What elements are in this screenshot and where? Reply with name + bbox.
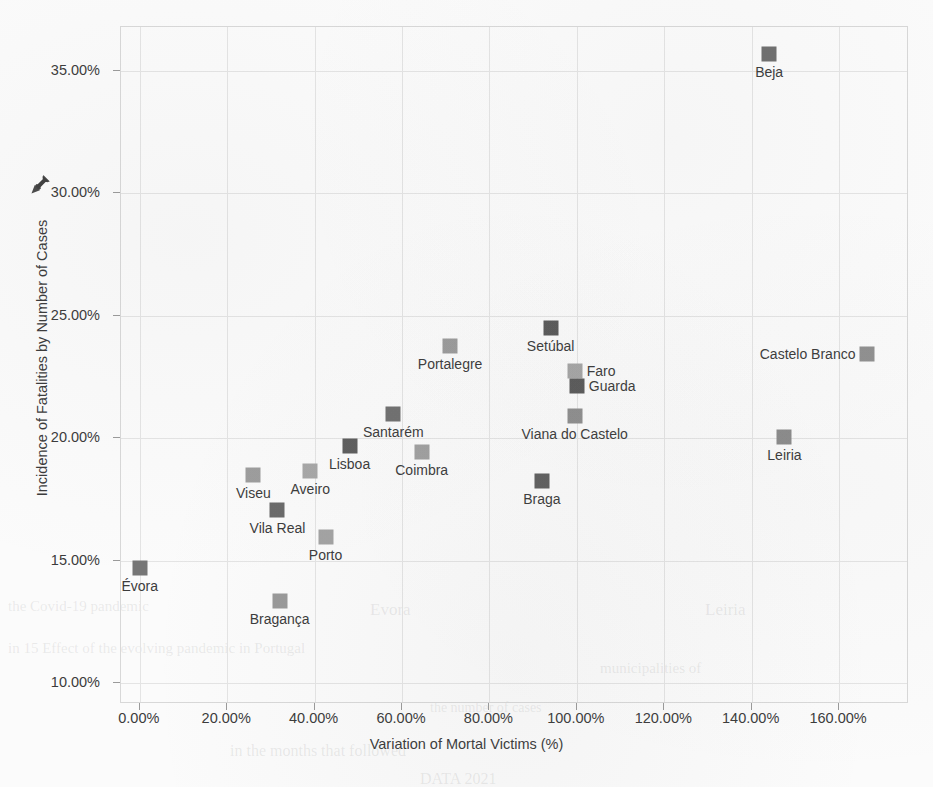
data-point-marker[interactable] [762,46,777,61]
x-axis-tick-label: 140.00% [722,710,779,726]
data-point-label: Faro [587,363,616,379]
y-axis-tick [113,70,120,71]
data-point-label: Viana do Castelo [521,426,627,442]
scatter-chart-figure: EvoraLeiriathe Covid-19 pandemicin 15 Ef… [0,0,933,787]
data-point-label: Évora [121,578,158,594]
data-point-label: Beja [755,64,783,80]
data-point-marker[interactable] [270,503,285,518]
x-axis-tick-label: 20.00% [202,710,251,726]
data-point-marker[interactable] [342,438,357,453]
x-axis-tick [401,703,402,710]
data-point-marker[interactable] [414,444,429,459]
y-axis-title: Incidence of Fatalities by Number of Cas… [34,148,50,568]
x-axis-tick [663,703,664,710]
x-axis-tick [488,703,489,710]
data-point-label: Portalegre [418,356,483,372]
x-axis-tick [226,703,227,710]
gridline-horizontal [121,683,907,684]
gridline-vertical [402,27,403,702]
data-point-marker[interactable] [132,560,147,575]
data-point-marker[interactable] [860,346,875,361]
x-axis-tick-label: 0.00% [118,710,159,726]
data-point-label: Guarda [589,378,636,394]
data-point-marker[interactable] [303,464,318,479]
gridline-vertical [489,27,490,702]
gridline-vertical [752,27,753,702]
y-axis-tick [113,560,120,561]
y-axis-tick-label: 35.00% [8,62,100,78]
y-axis-tick [113,437,120,438]
gridline-horizontal [121,193,907,194]
data-point-marker[interactable] [567,409,582,424]
data-point-marker[interactable] [777,429,792,444]
x-axis-tick-label: 60.00% [376,710,425,726]
data-point-label: Vila Real [250,520,306,536]
x-axis-tick-label: 120.00% [635,710,692,726]
gridline-vertical [664,27,665,702]
gridline-horizontal [121,561,907,562]
x-axis-tick [314,703,315,710]
x-axis-tick-label: 160.00% [809,710,866,726]
x-axis-tick [576,703,577,710]
y-axis-tick-label: 20.00% [8,429,100,445]
data-point-marker[interactable] [318,530,333,545]
y-axis-tick-label: 10.00% [8,674,100,690]
data-point-marker[interactable] [443,339,458,354]
data-point-label: Viseu [236,485,271,501]
data-point-label: Lisboa [329,456,370,472]
data-point-label: Castelo Branco [760,346,856,362]
y-axis-tick [113,192,120,193]
data-point-label: Bragança [250,611,310,627]
y-axis-tick [113,682,120,683]
pushpin-icon [30,173,52,195]
data-point-label: Coimbra [395,462,448,478]
data-point-marker[interactable] [272,593,287,608]
y-axis-tick [113,315,120,316]
data-point-marker[interactable] [246,467,261,482]
x-axis-tick [838,703,839,710]
gridline-horizontal [121,71,907,72]
y-axis-tick-label: 25.00% [8,307,100,323]
data-point-marker[interactable] [534,474,549,489]
gridline-vertical [227,27,228,702]
ghost-text: DATA 2021 [420,770,497,787]
data-point-label: Leiria [767,447,801,463]
x-axis-tick [751,703,752,710]
data-point-marker[interactable] [386,406,401,421]
gridline-horizontal [121,316,907,317]
gridline-vertical [839,27,840,702]
data-point-label: Setúbal [527,338,574,354]
x-axis-title: Variation of Mortal Victims (%) [0,736,933,752]
x-axis-tick [139,703,140,710]
data-point-label: Aveiro [291,481,330,497]
data-point-marker[interactable] [569,378,584,393]
y-axis-tick-label: 30.00% [8,184,100,200]
x-axis-tick-label: 40.00% [289,710,338,726]
data-point-label: Porto [309,547,342,563]
gridline-vertical [140,27,141,702]
data-point-label: Braga [523,491,560,507]
data-point-label: Santarém [363,424,424,440]
data-point-marker[interactable] [567,363,582,378]
x-axis-tick-label: 80.00% [464,710,513,726]
data-point-marker[interactable] [543,321,558,336]
gridline-vertical [315,27,316,702]
y-axis-tick-label: 15.00% [8,552,100,568]
x-axis-tick-label: 100.00% [547,710,604,726]
plot-area: BejaSetúbalPortalegreCastelo BrancoFaroG… [120,26,908,703]
